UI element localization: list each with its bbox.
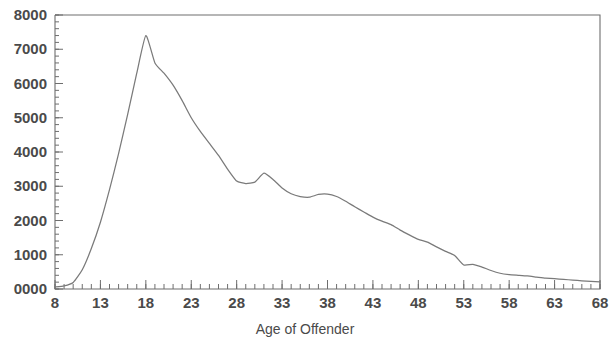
x-axis-tick-label: 43 bbox=[365, 294, 382, 311]
x-axis-tick-label: 13 bbox=[92, 294, 109, 311]
y-axis-tick-label: 1000 bbox=[14, 246, 47, 263]
y-axis-tick-label: 3000 bbox=[14, 177, 47, 194]
y-axis-tick-label: 5000 bbox=[14, 109, 47, 126]
y-axis-tick-label: 6000 bbox=[14, 75, 47, 92]
x-axis-tick-label: 23 bbox=[183, 294, 200, 311]
x-axis-tick-label: 18 bbox=[137, 294, 154, 311]
x-axis-tick-label: 58 bbox=[501, 294, 518, 311]
x-axis-tick-label: 28 bbox=[228, 294, 245, 311]
x-axis-tick-label: 48 bbox=[410, 294, 427, 311]
x-axis-tick-label: 63 bbox=[546, 294, 563, 311]
y-axis-tick-label: 0000 bbox=[14, 280, 47, 297]
chart-canvas: 000010002000300040005000600070008000 813… bbox=[0, 0, 610, 342]
x-axis-title: Age of Offender bbox=[256, 321, 355, 337]
chart-background bbox=[0, 0, 610, 342]
y-axis-tick-label: 2000 bbox=[14, 212, 47, 229]
y-axis-tick-label: 4000 bbox=[14, 143, 47, 160]
y-axis-tick-label: 8000 bbox=[14, 6, 47, 23]
x-axis-tick-label: 33 bbox=[274, 294, 291, 311]
offender-age-line-chart: 000010002000300040005000600070008000 813… bbox=[0, 0, 610, 342]
y-axis-tick-label: 7000 bbox=[14, 40, 47, 57]
x-axis-tick-label: 8 bbox=[51, 294, 59, 311]
x-axis-tick-label: 68 bbox=[592, 294, 609, 311]
y-axis-tick-labels: 000010002000300040005000600070008000 bbox=[14, 6, 47, 297]
x-axis-tick-label: 38 bbox=[319, 294, 336, 311]
x-axis-tick-label: 53 bbox=[455, 294, 472, 311]
